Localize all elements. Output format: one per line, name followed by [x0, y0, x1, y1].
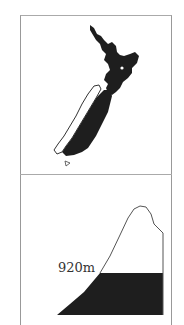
- elevation-label: 920m: [58, 261, 95, 274]
- mountain-dark-fill: [57, 273, 163, 315]
- south-tip-islet: [65, 161, 70, 166]
- north-island-shape: [90, 25, 139, 95]
